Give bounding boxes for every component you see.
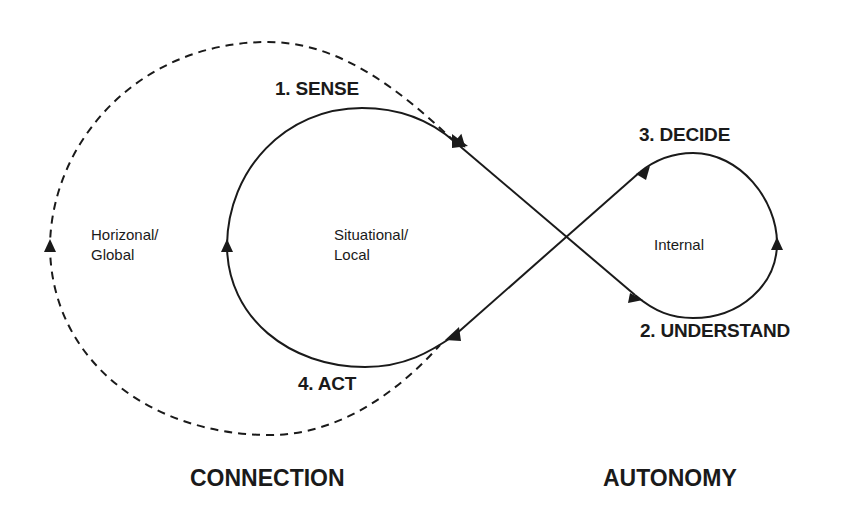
- step-label-decide: 3. DECIDE: [639, 124, 730, 146]
- arrow-icon-decide: [636, 166, 650, 180]
- arrow-icon-outer-loop-up: [44, 239, 56, 252]
- diagonal-decide-to-act: [455, 172, 640, 335]
- diagonal-sense-to-understand: [455, 142, 635, 295]
- region-label-local: Situational/ Local: [334, 225, 408, 265]
- arrow-icon-act: [445, 327, 461, 341]
- step-label-understand: 2. UNDERSTAND: [640, 320, 790, 342]
- region-global-line1: Horizonal/: [91, 225, 159, 245]
- region-local-line1: Situational/: [334, 225, 408, 245]
- region-global-line2: Global: [91, 245, 159, 265]
- step-label-sense: 1. SENSE: [275, 78, 359, 100]
- region-local-line2: Local: [334, 245, 408, 265]
- arrow-icon-right-loop-up: [771, 237, 783, 250]
- step-label-act: 4. ACT: [298, 373, 356, 395]
- region-label-internal: Internal: [654, 235, 704, 255]
- pole-label-connection: CONNECTION: [190, 465, 345, 492]
- region-internal-line1: Internal: [654, 235, 704, 255]
- region-label-global: Horizonal/ Global: [91, 225, 159, 265]
- pole-label-autonomy: AUTONOMY: [603, 465, 737, 492]
- arrow-icon-left-loop-up: [221, 239, 233, 252]
